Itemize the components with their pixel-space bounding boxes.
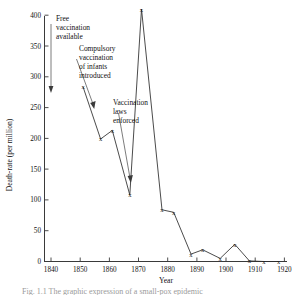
data-point-marker: x	[189, 251, 193, 258]
annotation-arrowhead-2	[90, 101, 95, 109]
x-tick-label-1900: 1900	[219, 266, 234, 274]
data-point-marker: x	[99, 135, 103, 142]
data-point-marker: x	[160, 206, 164, 213]
y-tick-label-400: 400	[30, 12, 41, 20]
data-point-marker: x	[128, 191, 132, 198]
y-tick-label-100: 100	[30, 196, 41, 204]
x-tick-label-1890: 1890	[190, 266, 205, 274]
y-tick-label-50: 50	[34, 227, 42, 235]
annotation-compulsory-vaccination: Compulsory vaccination of infants introd…	[77, 44, 116, 109]
x-tick-label-1840: 1840	[44, 266, 59, 274]
data-point-marker: x	[219, 255, 223, 262]
x-tick-label-1870: 1870	[131, 266, 146, 274]
figure-container: 0 50 100 150 200 250 300 350 400 1840 18…	[0, 0, 297, 295]
annotation-label-2-line-4: introduced	[79, 71, 111, 80]
y-tick-label-150: 150	[30, 166, 41, 174]
x-tick-label-1880: 1880	[161, 266, 176, 274]
y-tick-label-300: 300	[30, 73, 41, 81]
y-tick-label-350: 350	[30, 43, 41, 51]
y-tick-label-0: 0	[37, 258, 41, 266]
annotation-label-2-line-2: vaccination	[79, 53, 113, 62]
annotation-label-3-line-3: enforced	[113, 116, 139, 125]
y-axis-title: Death-rate (per million)	[5, 118, 14, 191]
annotation-label-1-line-2: vaccination	[56, 23, 90, 32]
annotation-label-2-line-1: Compulsory	[79, 44, 116, 53]
annotation-label-2-line-3: of infants	[79, 62, 107, 71]
annotation-arrowhead-1	[49, 86, 54, 93]
y-tick-label-200: 200	[30, 135, 41, 143]
annotation-label-3-line-1: Vaccination	[113, 98, 148, 107]
data-point-marker: x	[140, 6, 144, 13]
y-tick-marks	[45, 15, 49, 261]
annotation-label-1-line-1: Free	[56, 14, 70, 23]
data-point-marker: x	[111, 127, 115, 134]
y-tick-label-250: 250	[30, 104, 41, 112]
x-axis-title: Year	[159, 276, 173, 285]
data-point-marker: x	[172, 209, 176, 216]
x-tick-label-1920: 1920	[277, 266, 292, 274]
annotation-label-3-line-2: laws	[113, 107, 127, 116]
x-tick-label-1860: 1860	[102, 266, 117, 274]
x-tick-label-1850: 1850	[73, 266, 88, 274]
x-tick-labels: 1840 1850 1860 1870 1880 1890 1900 1910 …	[44, 266, 292, 274]
x-tick-label-1910: 1910	[248, 266, 263, 274]
annotation-label-1-line-3: available	[56, 32, 83, 41]
annotation-vaccination-laws: Vaccination laws enforced	[113, 98, 148, 183]
y-tick-labels: 0 50 100 150 200 250 300 350 400	[30, 12, 41, 266]
data-point-marker: x	[201, 246, 205, 253]
figure-caption: Fig. 1.1 The graphic expression of a sma…	[22, 287, 203, 295]
data-point-marker: x	[81, 83, 85, 90]
smallpox-death-rate-chart: 0 50 100 150 200 250 300 350 400 1840 18…	[0, 0, 297, 295]
